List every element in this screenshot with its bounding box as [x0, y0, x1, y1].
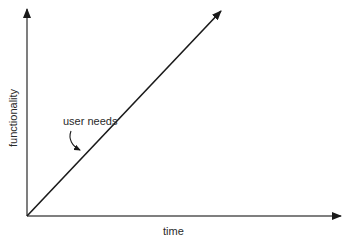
- annotation-user-needs: user needs: [63, 115, 118, 127]
- y-axis-label: functionality: [7, 88, 19, 147]
- diagram-canvas: user needs time functionality: [0, 0, 349, 245]
- x-axis-label: time: [163, 225, 184, 237]
- annotation-arrow: [70, 131, 80, 150]
- diagram-svg: user needs time functionality: [0, 0, 349, 245]
- user-needs-line: [27, 11, 221, 216]
